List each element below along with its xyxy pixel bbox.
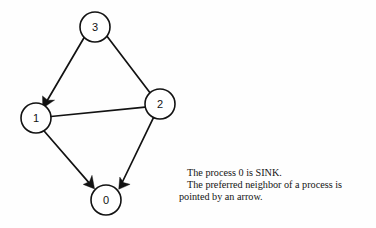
node-3[interactable]: 3 [80,12,110,42]
figure-root: 3 2 1 0 The process 0 is SINK. The prefe… [0,0,376,228]
figure-caption: The process 0 is SINK. The preferred nei… [179,167,369,204]
node-0[interactable]: 0 [91,185,121,215]
caption-line-3: pointed by an arrow. [179,191,369,203]
edge-2-to-0-line [121,117,153,184]
node-1[interactable]: 1 [21,103,51,133]
edge-2-to-1 [51,107,145,116]
edge-3-to-2 [107,37,150,93]
node-1-label: 1 [33,112,39,124]
edge-2-to-1-line [51,107,145,116]
edge-3-to-1-line [46,37,85,103]
edge-2-to-0 [119,117,154,189]
edge-3-to-1 [43,37,85,108]
caption-line-1: The process 0 is SINK. [179,167,369,179]
caption-line-2: The preferred neighbor of a process is [179,179,369,191]
node-3-label: 3 [92,21,98,33]
edge-1-to-0-line [44,131,91,185]
node-0-label: 0 [103,194,109,206]
node-2[interactable]: 2 [145,89,175,119]
node-2-label: 2 [157,98,163,110]
edge-1-to-0 [44,131,95,189]
edge-3-to-2-line [107,37,150,93]
